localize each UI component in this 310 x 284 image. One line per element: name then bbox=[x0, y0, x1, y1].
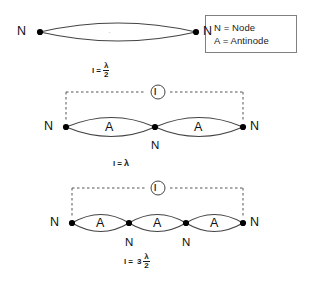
harmonic3-antinode-label-1: A bbox=[96, 217, 104, 230]
harmonic2-antinode-label-1: A bbox=[105, 121, 113, 134]
harmonic3-node-label-right: N bbox=[250, 216, 259, 229]
legend-row-node: N = Node bbox=[214, 21, 290, 34]
harmonic3-equation-lhs: l bbox=[124, 258, 126, 266]
harmonic3-equation-fraction: λ 2 bbox=[143, 253, 149, 270]
harmonic1-node-label-right: N bbox=[203, 25, 212, 38]
harmonic3-equation-coefficient: 3 bbox=[137, 258, 141, 266]
harmonic3-equation: l = 3 λ 2 bbox=[124, 253, 150, 270]
harmonic2-node-label-right: N bbox=[250, 120, 259, 133]
node-dot-left bbox=[63, 124, 69, 130]
node-dot-left bbox=[37, 29, 43, 35]
harmonic2-equation-lhs: l bbox=[113, 160, 115, 168]
node-dot-right bbox=[240, 220, 246, 226]
harmonic2-equation-numerator: λ bbox=[124, 159, 129, 168]
harmonic1-equation-equals: = bbox=[96, 67, 101, 75]
harmonic2-node-label-middle: N bbox=[151, 140, 159, 152]
harmonic-third-bracket bbox=[72, 181, 243, 216]
legend-row-antinode: A = Antinode bbox=[214, 34, 290, 47]
harmonic-fundamental-shape bbox=[37, 23, 199, 41]
harmonic3-antinode-label-3: A bbox=[210, 217, 218, 230]
standing-wave-diagram: N = Node A = Antinode N N · l = λ 2 l N … bbox=[0, 0, 310, 284]
harmonic2-length-marker-label: l bbox=[154, 88, 156, 97]
harmonic1-equation-denominator: 2 bbox=[103, 71, 109, 79]
harmonic3-node-label-inner-1: N bbox=[125, 237, 133, 249]
harmonic1-equation-fraction: λ 2 bbox=[103, 62, 109, 79]
node-dot-right bbox=[193, 29, 199, 35]
harmonic2-node-label-left: N bbox=[44, 120, 53, 133]
node-dot-inner-2 bbox=[183, 220, 189, 226]
harmonic1-equation-lhs: l bbox=[92, 67, 94, 75]
harmonic-second-shape bbox=[63, 118, 246, 137]
node-dot-middle bbox=[152, 124, 158, 130]
harmonic1-node-label-left: N bbox=[17, 25, 26, 38]
harmonic3-node-label-inner-2: N bbox=[182, 237, 190, 249]
harmonic3-equation-denominator: 2 bbox=[143, 262, 149, 270]
legend-box: N = Node A = Antinode bbox=[205, 15, 297, 53]
harmonic3-node-label-left: N bbox=[50, 216, 59, 229]
harmonic1-equation: l = λ 2 bbox=[92, 62, 109, 79]
harmonic2-equation: l = λ bbox=[113, 159, 129, 168]
node-dot-right bbox=[240, 124, 246, 130]
node-dot-left bbox=[69, 220, 75, 226]
harmonic3-equation-equals: = bbox=[128, 258, 133, 266]
loop-fundamental-1 bbox=[40, 23, 196, 41]
harmonic3-antinode-label-2: A bbox=[153, 217, 161, 230]
harmonic2-equation-equals: = bbox=[117, 160, 122, 168]
harmonic2-antinode-label-2: A bbox=[194, 121, 202, 134]
harmonic1-antinode-smudge: · bbox=[108, 28, 111, 37]
node-dot-inner-1 bbox=[126, 220, 132, 226]
harmonic3-length-marker-label: l bbox=[154, 184, 156, 193]
